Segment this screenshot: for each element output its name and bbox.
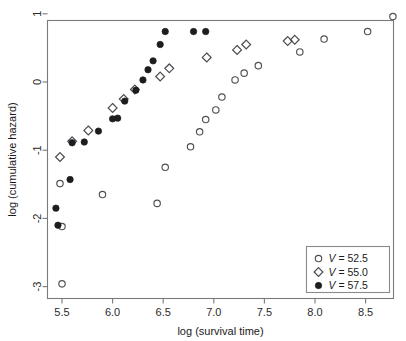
point-open-circle	[241, 70, 247, 76]
point-filled-circle-legend	[315, 282, 321, 288]
y-axis-title: log (cumulative hazard)	[6, 102, 18, 216]
x-tick-label: 7.0	[206, 306, 221, 318]
point-open-circle	[213, 107, 219, 113]
point-open-diamond	[242, 40, 251, 49]
point-open-circle	[187, 144, 193, 150]
x-tick-label: 8.5	[358, 306, 373, 318]
legend[interactable]: V = 52.5V = 55.0V = 57.5	[307, 247, 390, 293]
point-open-diamond	[56, 153, 65, 162]
point-filled-circle	[53, 205, 59, 211]
x-tick-label: 8.0	[307, 306, 322, 318]
point-open-diamond	[156, 72, 165, 81]
series-v-57-5	[53, 28, 209, 228]
point-open-circle	[219, 94, 225, 100]
point-open-diamond	[233, 46, 242, 55]
point-filled-circle	[133, 87, 139, 93]
point-filled-circle	[95, 128, 101, 134]
y-tick-label: 0	[31, 79, 43, 85]
point-open-circle	[364, 28, 370, 34]
y-tick-label: -2	[31, 214, 43, 224]
x-axis-title: log (survival time)	[177, 325, 263, 337]
point-open-circle	[99, 191, 105, 197]
point-open-diamond	[108, 104, 117, 113]
point-filled-circle	[69, 139, 75, 145]
point-filled-circle	[145, 67, 151, 73]
point-open-diamond	[290, 35, 299, 44]
legend-value: = 55.0	[336, 266, 369, 278]
axis-labels-group: log (survival time)log (cumulative hazar…	[6, 102, 264, 336]
point-filled-circle	[122, 98, 128, 104]
point-open-circle	[321, 36, 327, 42]
point-open-circle	[57, 180, 63, 186]
point-filled-circle	[157, 41, 163, 47]
point-open-circle	[232, 77, 238, 83]
legend-label: V = 52.5	[329, 252, 369, 264]
point-open-circle	[154, 200, 160, 206]
x-tick-label: 6.0	[105, 306, 120, 318]
legend-value: = 57.5	[336, 279, 369, 291]
y-tick-label: -3	[31, 282, 43, 292]
point-open-circle	[297, 49, 303, 55]
point-open-circle	[255, 62, 261, 68]
scatter-plot-figure: 5.56.06.57.07.58.08.510-1-2-3 log (survi…	[0, 0, 406, 341]
point-filled-circle	[67, 176, 73, 182]
plot-canvas: 5.56.06.57.07.58.08.510-1-2-3 log (survi…	[0, 0, 406, 341]
point-open-circle	[162, 164, 168, 170]
point-open-diamond	[202, 53, 211, 62]
point-filled-circle	[190, 28, 196, 34]
legend-label: V = 57.5	[329, 279, 369, 291]
x-tick-label: 5.5	[54, 306, 69, 318]
legend-value: = 52.5	[336, 252, 369, 264]
point-filled-circle	[162, 28, 168, 34]
series-v-55-0	[56, 35, 300, 161]
point-filled-circle	[140, 77, 146, 83]
y-tick-label: 1	[31, 11, 43, 17]
point-filled-circle	[203, 28, 209, 34]
point-open-diamond	[84, 126, 93, 135]
point-open-diamond	[283, 37, 292, 46]
x-tick-label: 7.5	[257, 306, 272, 318]
x-tick-label: 6.5	[156, 306, 171, 318]
point-open-circle	[203, 116, 209, 122]
point-open-circle	[390, 13, 396, 19]
legend-label: V = 55.0	[329, 266, 369, 278]
point-open-diamond	[165, 64, 174, 73]
point-open-circle	[59, 281, 65, 287]
point-open-circle	[196, 129, 202, 135]
point-filled-circle	[150, 58, 156, 64]
point-filled-circle	[81, 139, 87, 145]
point-filled-circle	[114, 115, 120, 121]
y-tick-label: -1	[31, 145, 43, 155]
point-filled-circle	[55, 222, 61, 228]
